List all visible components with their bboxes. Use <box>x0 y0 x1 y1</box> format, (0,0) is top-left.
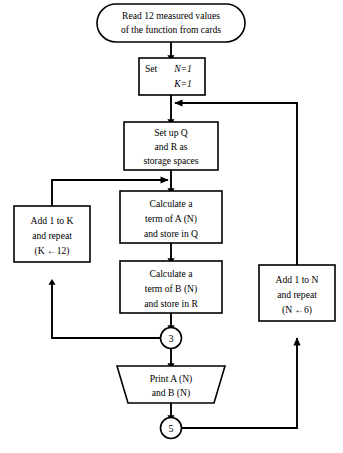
setup-storage-line-1: Set up Q <box>154 127 188 138</box>
connector-5-label: 5 <box>169 423 174 434</box>
node-set-init[interactable]: Set N=1 K=1 <box>139 58 205 95</box>
calc-b-line-2: term of B (N) <box>145 283 198 295</box>
read-terminal-line-1: Read 12 measured values <box>122 10 220 21</box>
add-k-line-3: (K ←12) <box>35 245 70 257</box>
calc-b-line-3: and store in R <box>144 298 198 309</box>
read-terminal-line-2: of the function from cards <box>121 24 221 35</box>
node-calc-b[interactable]: Calculate a term of B (N) and store in R <box>120 261 222 313</box>
node-read-terminal[interactable]: Read 12 measured values of the function … <box>97 4 245 42</box>
calc-b-line-1: Calculate a <box>150 268 194 279</box>
set-init-line-1: N=1 <box>173 63 192 74</box>
node-add-k[interactable]: Add 1 to K and repeat (K ←12) <box>14 206 90 262</box>
print-out-line-2: and B (N) <box>152 387 190 399</box>
node-print-out[interactable]: Print A (N) and B (N) <box>117 366 225 403</box>
calc-a-line-2: term of A (N) <box>145 213 197 225</box>
node-connector-3[interactable]: 3 <box>161 328 182 349</box>
add-n-line-3: (N ←6) <box>282 304 312 316</box>
set-init-prefix: Set <box>145 63 158 74</box>
node-setup-storage[interactable]: Set up Q and R as storage spaces <box>124 122 218 170</box>
node-connector-5[interactable]: 5 <box>161 418 182 439</box>
calc-a-line-1: Calculate a <box>150 198 194 209</box>
node-add-n[interactable]: Add 1 to N and repeat (N ←6) <box>259 265 335 321</box>
calc-a-line-3: and store in Q <box>144 228 198 239</box>
add-n-line-1: Add 1 to N <box>276 274 319 285</box>
print-out-line-1: Print A (N) <box>150 373 193 385</box>
connector-3-label: 3 <box>169 333 174 344</box>
setup-storage-line-2: and R as <box>154 141 187 152</box>
setup-storage-line-3: storage spaces <box>143 155 198 166</box>
add-n-line-2: and repeat <box>277 289 317 300</box>
set-init-line-2: K=1 <box>173 78 192 89</box>
flowchart-canvas: Read 12 measured values of the function … <box>0 0 343 453</box>
add-k-line-2: and repeat <box>32 230 72 241</box>
add-k-line-1: Add 1 to K <box>31 215 74 226</box>
node-calc-a[interactable]: Calculate a term of A (N) and store in Q <box>120 191 222 243</box>
